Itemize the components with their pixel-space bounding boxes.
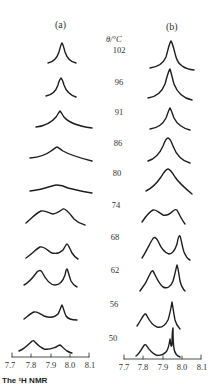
x-tick-label-b: 7.9 (153, 362, 173, 372)
temperature-label: 86 (106, 138, 130, 148)
panel-label-b: (b) (166, 22, 178, 32)
spectra-plot (0, 0, 218, 384)
temperature-label: 50 (101, 333, 125, 343)
panel-a-spectra (19, 43, 92, 353)
x-tick-label-a: 7.7 (0, 360, 20, 370)
x-tick-label-b: 7.7 (114, 362, 134, 372)
nmr-figure: (a) (b) θ/°C 102 96 91 86 80 74 68 62 56… (0, 0, 218, 384)
temperature-label: 56 (102, 299, 126, 309)
panel-b-spectra (136, 41, 194, 357)
x-tick-label-a: 7.8 (21, 360, 41, 370)
temperature-axis-title: θ/°C (106, 34, 122, 44)
x-tick-label-a: 8.1 (80, 360, 100, 370)
temperature-label: 68 (103, 232, 127, 242)
temperature-label: 96 (107, 77, 131, 87)
x-tick-label-a: 8.0 (60, 360, 80, 370)
temperature-label: 80 (105, 168, 129, 178)
temperature-label: 91 (107, 107, 131, 117)
temperature-label: 62 (103, 265, 127, 275)
x-tick-label-b: 7.8 (133, 362, 153, 372)
panel-label-a: (a) (55, 20, 66, 30)
temperature-label: 102 (107, 45, 131, 55)
temperature-label: 74 (104, 200, 128, 210)
x-tick-label-b: 8.1 (192, 362, 212, 372)
x-tick-label-b: 8.0 (172, 362, 192, 372)
x-tick-label-a: 7.9 (41, 360, 61, 370)
x-axes (12, 353, 201, 359)
figure-caption: The ¹H NMR (2, 376, 47, 384)
